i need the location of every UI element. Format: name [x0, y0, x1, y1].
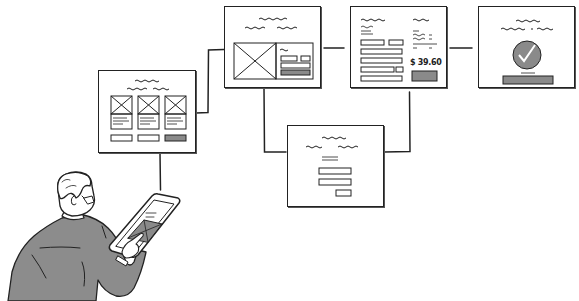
person-with-tablet — [0, 0, 579, 301]
user-flow-diagram: $ 39.60 — [0, 0, 579, 301]
